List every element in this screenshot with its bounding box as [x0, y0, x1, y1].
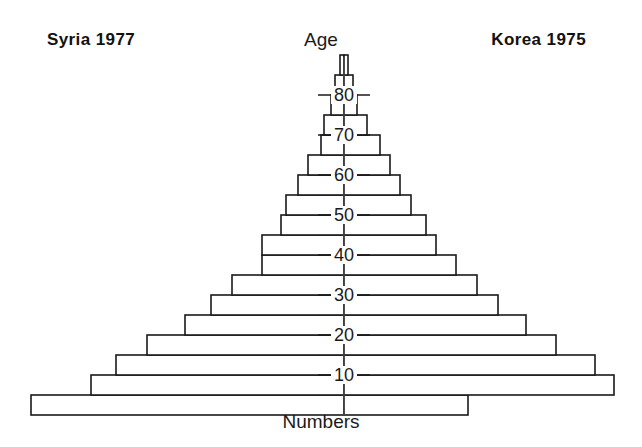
bar-right-age-20: [344, 315, 526, 335]
bar-right-age-5: [344, 375, 614, 395]
bar-right-age-25: [344, 295, 498, 315]
age-tick-label-30: 30: [331, 286, 357, 304]
bar-right-age-30: [344, 275, 477, 295]
age-tick-label-80: 80: [331, 86, 357, 104]
bar-left-age-10: [116, 355, 344, 375]
bar-left-age-0: [31, 395, 344, 415]
bar-right-age-40: [344, 235, 436, 255]
age-tick-label-70: 70: [331, 126, 357, 144]
population-pyramid-figure: Syria 1977 Korea 1975 Age Numbers 102030…: [0, 0, 642, 447]
bar-left-age-30: [232, 275, 344, 295]
pyramid-plot-area: [0, 0, 642, 447]
bar-right-age-10: [344, 355, 595, 375]
bar-left-age-25: [211, 295, 344, 315]
age-tick-label-10: 10: [331, 366, 357, 384]
right-bars-group: [344, 55, 614, 415]
bar-left-age-5: [91, 375, 344, 395]
age-tick-label-40: 40: [331, 246, 357, 264]
bar-right-age-35: [344, 255, 456, 275]
pyramid-svg: [0, 0, 642, 447]
age-tick-label-50: 50: [331, 206, 357, 224]
left-bars-group: [31, 55, 344, 415]
bar-right-age-15: [344, 335, 556, 355]
age-tick-label-60: 60: [331, 166, 357, 184]
bar-left-age-15: [147, 335, 344, 355]
bar-right-age-0: [344, 395, 468, 415]
bar-left-age-20: [185, 315, 344, 335]
age-tick-label-20: 20: [331, 326, 357, 344]
